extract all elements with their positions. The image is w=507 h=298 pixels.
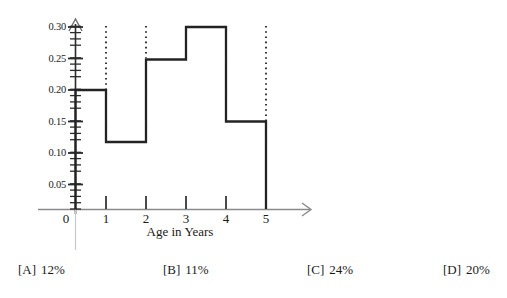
answer-choice-b-value: 11% [185, 262, 208, 277]
x-major-ticks [106, 196, 266, 209]
histogram-bars-outline [76, 27, 267, 209]
x-tick-label-0: 0 [57, 211, 75, 227]
x-axis-title: Age in Years [100, 224, 260, 240]
answer-choice-a-tag: [A] [18, 262, 36, 277]
answer-choice-b-tag: [B] [163, 262, 180, 277]
y-tick-label-020: 0.20 [32, 84, 66, 95]
y-tick-label-010: 0.10 [32, 147, 66, 158]
y-tick-label-005: 0.05 [32, 179, 66, 190]
answer-choice-a-value: 12% [41, 262, 65, 277]
histogram-svg [0, 0, 507, 250]
y-tick-label-030: 0.30 [32, 21, 66, 32]
y-tick-label-025: 0.25 [32, 53, 66, 64]
answer-choice-a[interactable]: [A]12% [18, 262, 65, 278]
answer-choice-d-value: 20% [466, 262, 490, 277]
answer-choice-b[interactable]: [B]11% [163, 262, 209, 278]
answer-choice-c-tag: [C] [307, 262, 324, 277]
answer-choice-c[interactable]: [C]24% [307, 262, 353, 278]
histogram-figure: 0.30 0.25 0.20 0.15 0.10 0.05 0 1 2 3 4 … [0, 0, 507, 250]
answer-choice-c-value: 24% [329, 262, 353, 277]
answer-choice-d[interactable]: [D]20% [443, 262, 490, 278]
answer-choices-row: [A]12% [B]11% [C]24% [D]20% [0, 262, 507, 288]
answer-choice-d-tag: [D] [443, 262, 461, 277]
y-tick-label-015: 0.15 [32, 116, 66, 127]
